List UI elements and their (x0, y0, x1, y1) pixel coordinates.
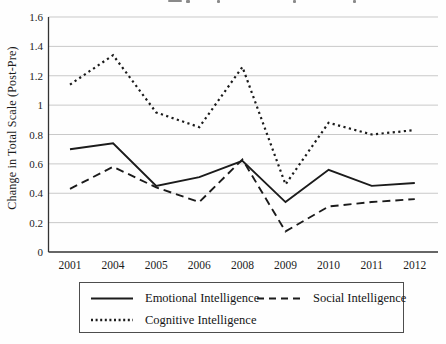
y-tick-label: 1.2 (0, 69, 43, 83)
y-tick-label: 1 (0, 98, 43, 112)
dotted-line-swatch-icon (90, 317, 134, 323)
x-tick-label: 2010 (307, 259, 351, 271)
series-line-dotted (70, 55, 415, 184)
legend-item-social-intelligence: Social Intelligence (256, 290, 406, 306)
x-tick-label: 2009 (264, 259, 308, 271)
y-tick-label: 1.4 (0, 39, 43, 53)
legend-label: Emotional Intelligence (145, 291, 259, 306)
y-tick-label: 0.6 (0, 157, 43, 171)
legend-label: Social Intelligence (313, 291, 406, 306)
x-tick-label: 2012 (393, 259, 437, 271)
legend-item-emotional-intelligence: Emotional Intelligence (90, 290, 259, 306)
x-tick-label: 2011 (350, 259, 394, 271)
y-tick-label: 0.2 (0, 216, 43, 230)
x-tick-label: 2006 (177, 259, 221, 271)
dashed-line-swatch-icon (256, 296, 302, 301)
series-line-dashed (70, 159, 415, 231)
y-tick-label: 0.4 (0, 186, 43, 200)
y-tick-label: 0.8 (0, 128, 43, 142)
x-tick-label: 2005 (134, 259, 178, 271)
x-tick-label: 2001 (48, 259, 92, 271)
chart-figure: Change in Total Scale (Post-Pre) 00.20.4… (0, 0, 446, 344)
legend: Emotional Intelligence Social Intelligen… (79, 282, 404, 333)
y-tick-label: 1.6 (0, 10, 43, 24)
legend-label: Cognitive Intelligence (145, 313, 256, 328)
y-tick-label: 0 (0, 245, 43, 259)
legend-item-cognitive-intelligence: Cognitive Intelligence (90, 312, 256, 328)
solid-line-swatch-icon (90, 296, 134, 301)
x-tick-label: 2004 (91, 259, 135, 271)
x-tick-label: 2008 (220, 259, 264, 271)
